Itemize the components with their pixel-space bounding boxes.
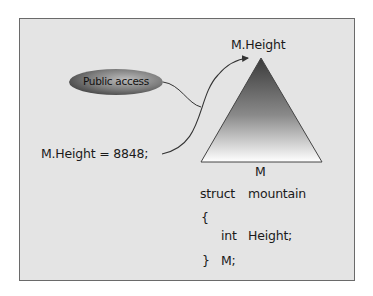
code-member-type: int xyxy=(221,228,237,243)
code-member-name: Height; xyxy=(248,228,292,243)
code-keyword-struct: struct xyxy=(200,186,235,201)
assignment-statement: M.Height = 8848; xyxy=(41,146,148,161)
code-instance: M; xyxy=(221,253,236,268)
code-open-brace: { xyxy=(201,210,209,225)
object-label: M xyxy=(255,164,266,179)
public-access-label: Public access xyxy=(83,75,183,87)
code-struct-name: mountain xyxy=(248,186,306,201)
height-label: M.Height xyxy=(231,37,285,52)
code-close-brace: } xyxy=(202,253,210,268)
